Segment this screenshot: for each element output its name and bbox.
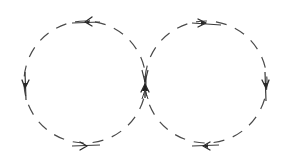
arrow-left-icon <box>192 142 219 150</box>
arrow-down-icon <box>262 72 269 101</box>
right-orbit-circle <box>145 21 267 143</box>
figure-eight-diagram <box>0 0 283 158</box>
left-orbit-circle <box>24 21 146 143</box>
arrow-down-icon <box>22 72 29 100</box>
arrow-right-icon <box>72 142 100 150</box>
arrow-right-icon <box>192 19 221 27</box>
